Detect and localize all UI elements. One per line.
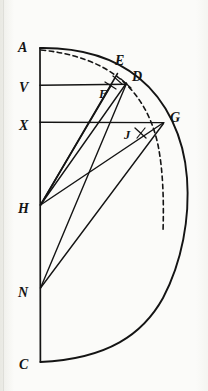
segment-ray-NG <box>41 124 164 289</box>
arc-semicircle-ADGC <box>40 48 188 362</box>
point-label-E: E <box>114 53 124 68</box>
point-label-H: H <box>17 201 30 216</box>
point-label-J: J <box>123 128 131 142</box>
point-label-G: G <box>170 110 180 125</box>
tick-mark-D <box>121 79 131 88</box>
point-label-N: N <box>17 285 29 300</box>
geometric-figure: A V X H N C E D F G J <box>0 0 208 391</box>
point-label-D: D <box>131 69 142 84</box>
point-label-A: A <box>17 40 27 55</box>
point-label-X: X <box>18 118 29 133</box>
point-label-F: F <box>98 87 108 101</box>
figure-ink <box>40 48 188 362</box>
point-label-V: V <box>19 80 30 95</box>
segment-chord-VD <box>40 84 127 85</box>
segment-ray-HG <box>41 123 164 205</box>
figure-page: A V X H N C E D F G J <box>0 0 208 391</box>
point-label-C: C <box>19 357 29 372</box>
